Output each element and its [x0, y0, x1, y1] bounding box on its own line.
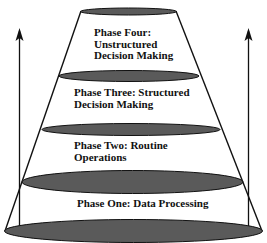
layer-separator-ellipse-1	[59, 71, 199, 82]
phase-one-label: Phase One: Data Processing	[77, 198, 208, 210]
phase-two-label: Phase Two: Routine Operations	[74, 140, 168, 163]
phase-three-label: Phase Three: Structured Decision Making	[74, 87, 190, 110]
cone-top-ellipse	[81, 8, 177, 15]
phase-two-line-1: Phase Two: Routine	[74, 140, 168, 152]
phase-four-line-1: Phase Four:	[94, 27, 173, 39]
phase-three-line-2: Decision Making	[74, 99, 190, 111]
layer-separator-ellipse-2	[42, 124, 220, 136]
phase-four-label: Phase Four: Unstructured Decision Making	[94, 27, 173, 62]
cone-left-edge	[5, 11, 81, 231]
phase-one-line-1: Phase One: Data Processing	[77, 198, 208, 210]
phase-four-line-3: Decision Making	[94, 50, 173, 62]
phase-three-line-1: Phase Three: Structured	[74, 87, 190, 99]
cone-base-ellipse	[5, 220, 263, 243]
phase-two-line-2: Operations	[74, 152, 168, 164]
layer-separator-ellipse-3	[22, 171, 243, 194]
